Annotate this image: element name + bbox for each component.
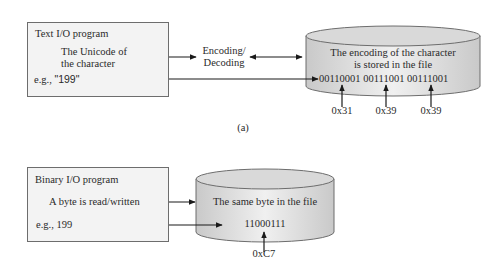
- binary-example: e.g., 199: [36, 219, 72, 231]
- example-value: "199": [54, 73, 79, 85]
- text-example: e.g., "199": [34, 73, 79, 86]
- binary-io-title: Binary I/O program: [35, 174, 118, 186]
- encoding-label-line1: Encoding/: [196, 45, 252, 57]
- hex-label-2: 0x39: [371, 105, 401, 117]
- hex-label-3: 0x39: [416, 105, 446, 117]
- hex-label-c7: 0xC7: [244, 248, 284, 260]
- unicode-line2: the character: [61, 58, 115, 70]
- encoding-label-line2: Decoding: [196, 57, 252, 69]
- file-b-line1: The same byte in the file: [196, 196, 334, 208]
- example-prefix: e.g.,: [34, 74, 54, 85]
- file-b-bits: 11000111: [196, 218, 334, 230]
- encoding-label: Encoding/ Decoding: [196, 45, 252, 69]
- text-io-title: Text I/O program: [35, 28, 108, 40]
- file-a-line2: is stored in the file: [306, 59, 480, 71]
- byte-rw-label: A byte is read/written: [49, 196, 140, 208]
- hex-label-1: 0x31: [327, 105, 357, 117]
- file-a-line1: The encoding of the character: [306, 47, 480, 59]
- caption-a: (a): [228, 122, 258, 134]
- file-a-bits: 00110001 00111001 00111001: [319, 73, 448, 85]
- unicode-line1: The Unicode of: [61, 46, 127, 58]
